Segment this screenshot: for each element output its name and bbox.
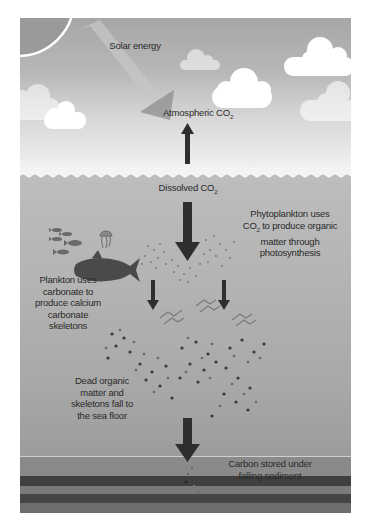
diagram-graphics [20,18,351,513]
sediment-particles [184,467,199,493]
atmospheric-co2-label: Atmospheric CO2 [158,107,238,123]
jellyfish-icon [100,231,112,248]
solar-energy-label: Solar energy [100,40,170,52]
carbon-stored-label: Carbon stored under falling sediment [220,458,320,481]
sinking-arrows-icon [147,280,230,310]
dissolved-co2-down-arrow-icon [175,202,200,261]
dissolved-co2-label: Dissolved CO2 [150,182,226,198]
zooplankton-icon [160,300,256,326]
carbon-cycle-diagram: Solar energy Atmospheric CO2 Dissolved C… [20,18,351,513]
phytoplankton-label: Phytoplankton uses CO2 to produce organi… [240,208,340,259]
plankton-calcium-label: Plankton uses carbonate to produce calci… [30,274,106,332]
dead-organic-matter-label: Dead organic matter and skeletons fall t… [62,375,142,421]
fish-school-icon [49,228,82,255]
carbon-sinking-arrow-icon [175,418,200,462]
sun-icon [20,18,74,56]
solar-energy-arrow-icon [78,20,174,120]
co2-upward-arrow-icon [181,123,194,164]
water-surface [20,168,351,178]
